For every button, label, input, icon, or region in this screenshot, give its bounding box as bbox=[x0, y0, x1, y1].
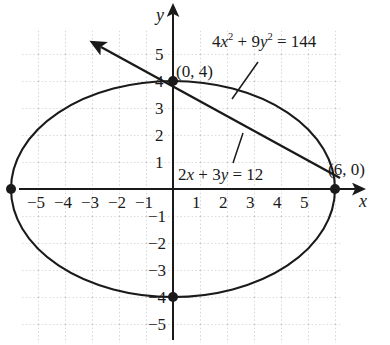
y-tick-label--2: −2 bbox=[148, 235, 166, 252]
point-label-right: (6, 0) bbox=[328, 161, 365, 178]
ellipse-eq-var-x: x bbox=[221, 32, 229, 51]
x-tick-label-4: 4 bbox=[273, 194, 282, 211]
ellipse-eq-prefix: 4 bbox=[212, 32, 221, 51]
y-tick-label-5: 5 bbox=[155, 46, 164, 63]
line-equation-label: 2x + 3y = 12 bbox=[178, 166, 263, 183]
y-tick-label--5: −5 bbox=[148, 316, 166, 333]
x-tick-label-5: 5 bbox=[300, 194, 309, 211]
line-eq-prefix: 2 bbox=[178, 165, 187, 184]
x-tick-label-2: 2 bbox=[219, 194, 228, 211]
line-eq-mid: + 3 bbox=[194, 165, 221, 184]
ellipse-eq-suffix: = 144 bbox=[273, 32, 317, 51]
x-axis-label: x bbox=[359, 192, 367, 210]
ellipse-equation-label: 4x2 + 9y2 = 144 bbox=[212, 33, 316, 50]
x-tick-label--4: −4 bbox=[54, 194, 72, 211]
y-tick-label-1: 1 bbox=[155, 154, 164, 171]
point-label-top: (0, 4) bbox=[176, 63, 213, 80]
y-tick-label--3: −3 bbox=[148, 262, 166, 279]
y-tick-label-3: 3 bbox=[155, 100, 164, 117]
y-tick-label-2: 2 bbox=[155, 127, 164, 144]
x-tick-label-1: 1 bbox=[192, 194, 201, 211]
graph-figure: y x −5 −4 −3 −2 −1 1 2 3 4 5 5 4 3 2 1 −… bbox=[0, 0, 390, 345]
x-tick-label--5: −5 bbox=[27, 194, 45, 211]
y-tick-label-4: 4 bbox=[155, 73, 164, 90]
point-marker-bottom bbox=[168, 292, 178, 302]
ellipse-eq-mid: + 9 bbox=[233, 32, 260, 51]
y-axis-label: y bbox=[156, 6, 164, 24]
y-tick-label--4: −4 bbox=[148, 289, 166, 306]
point-marker-right bbox=[330, 184, 340, 194]
line-eq-var-x: x bbox=[187, 165, 195, 184]
y-tick-label--1: −1 bbox=[148, 208, 166, 225]
x-tick-label--3: −3 bbox=[81, 194, 99, 211]
x-tick-label-3: 3 bbox=[246, 194, 255, 211]
line-eq-suffix: = 12 bbox=[228, 165, 263, 184]
x-tick-label--2: −2 bbox=[108, 194, 126, 211]
point-marker-left bbox=[6, 184, 16, 194]
